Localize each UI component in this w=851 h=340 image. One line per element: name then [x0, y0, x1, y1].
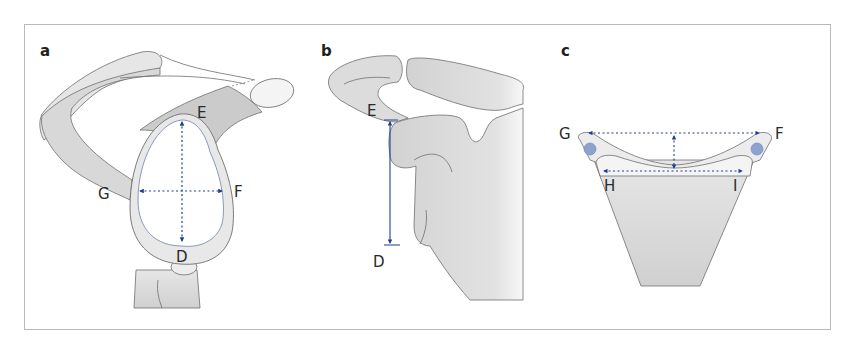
scapular-neck: [134, 270, 200, 308]
label-f: F: [234, 183, 243, 201]
label-h: H: [604, 177, 615, 195]
glenoid-body-section: [594, 160, 754, 286]
labrum-circle-right: [751, 143, 763, 155]
panel-a: a E F G D: [40, 42, 297, 308]
label-g: G: [559, 125, 571, 143]
label-g: G: [98, 185, 110, 203]
anatomical-figure: a E F G D b: [0, 0, 851, 340]
clavicle: [407, 58, 524, 110]
panel-c: c G F H I: [559, 42, 784, 286]
label-e: E: [197, 104, 206, 122]
label-e: E: [367, 102, 376, 120]
panel-letter-c: c: [561, 42, 570, 60]
panel-b: b E D: [321, 42, 524, 300]
label-f: F: [775, 125, 784, 143]
label-i: I: [733, 177, 737, 195]
ligament-dashed: [232, 80, 254, 86]
label-d: D: [373, 253, 385, 271]
label-d: D: [176, 248, 188, 266]
panel-letter-b: b: [321, 42, 332, 60]
labrum-circle-left: [584, 143, 596, 155]
panel-letter-a: a: [40, 42, 50, 60]
scapula-body: [389, 108, 523, 300]
